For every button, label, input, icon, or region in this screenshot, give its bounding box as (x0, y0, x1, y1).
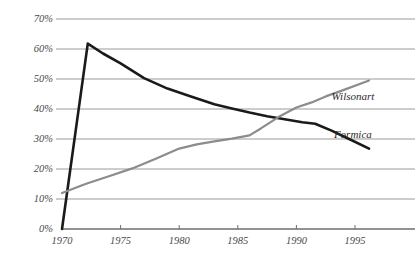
y-tick-label: 60% (34, 44, 53, 55)
y-tick-label: 10% (34, 194, 53, 205)
y-axis-ticks (56, 19, 64, 199)
series-label-wilsonart: Wilsonart (332, 91, 375, 102)
series-line-wilsonart (62, 81, 369, 194)
x-tick-label: 1990 (276, 236, 316, 247)
x-tick-label: 1980 (159, 236, 199, 247)
series-line-formica (62, 44, 369, 229)
x-tick-label: 1985 (218, 236, 258, 247)
x-tick-label: 1995 (335, 236, 375, 247)
line-chart: 0%10%20%30%40%50%60%70% 1970197519801985… (0, 0, 417, 263)
x-tick-label: 1970 (42, 236, 82, 247)
y-tick-label: 20% (34, 164, 53, 175)
y-tick-label: 40% (34, 104, 53, 115)
y-tick-label: 30% (34, 134, 53, 145)
y-tick-label: 70% (34, 14, 53, 25)
x-tick-label: 1975 (101, 236, 141, 247)
series-label-formica: Formica (334, 129, 372, 140)
y-tick-label: 0% (39, 224, 53, 235)
data-series-lines (62, 44, 369, 229)
y-tick-label: 50% (34, 74, 53, 85)
